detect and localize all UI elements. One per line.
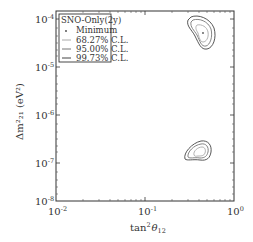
legend-marker-dot [65,30,67,32]
x-tick-label: 10-1 [138,205,157,217]
y-tick-labels: 10-4 10-5 10-6 10-7 10-8 [35,13,54,207]
y-tick-label: 10-5 [35,61,54,73]
x-axis-label: tan2θ12 [130,221,166,235]
y-tick-label: 10-4 [35,13,54,25]
x-tick-labels: 10-2 10-1 100 [48,205,244,217]
legend-item-99: 99.73% C.L. [76,53,128,63]
legend-title: SNO-Only(2y) [61,15,121,25]
legend-item-minimum: Minimum [76,25,117,35]
x-tick-label: 100 [227,205,244,217]
y-axis-label: Δm²₂₁ (eV²) [14,83,25,140]
chart-canvas: 10-4 10-5 10-6 10-7 10-8 10-2 10-1 100 t… [0,0,253,242]
y-tick-label: 10-6 [35,109,54,121]
legend: SNO-Only(2y) Minimum 68.27% C.L. 95.00% … [59,14,128,63]
x-tick-label: 10-2 [48,205,67,217]
y-tick-label: 10-7 [35,157,54,169]
best-fit-minimum-upper [202,32,204,34]
